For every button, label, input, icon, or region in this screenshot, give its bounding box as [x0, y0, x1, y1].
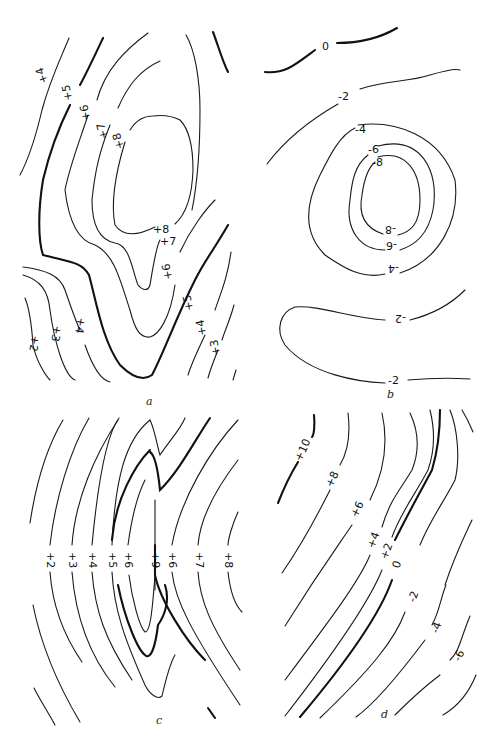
label-a: +8	[110, 132, 127, 151]
contour-c-plus9-ridge	[150, 418, 185, 455]
label-a: +4	[33, 66, 51, 86]
caption-b: b	[387, 388, 394, 401]
label-c: +4	[86, 552, 99, 568]
label-c: +2	[44, 552, 57, 568]
label-a: +5	[59, 84, 75, 102]
contour-b-zero	[265, 28, 397, 72]
contour-c-lower-left	[34, 688, 55, 725]
caption-a: a	[146, 395, 153, 408]
label-b: -4	[355, 123, 366, 136]
label-d: -4	[429, 620, 445, 635]
label-a: +4	[193, 319, 209, 337]
label-a: +7	[160, 235, 176, 248]
caption-c: c	[156, 714, 162, 727]
label-b: 0	[322, 40, 329, 53]
panel-a: +4 +5 +6 +7 +8 +8 +7 +6 +5 +4 +3 +2 +3 +…	[20, 32, 236, 408]
label-a: +2	[26, 334, 42, 352]
label-b: -2	[338, 90, 349, 103]
contour-a-plus8	[113, 115, 193, 233]
label-c: +8	[222, 552, 235, 568]
contour-d-minus6	[395, 520, 472, 715]
contour-d-zero	[300, 410, 440, 717]
label-b: -8	[372, 156, 383, 169]
label-d: 0	[390, 559, 405, 570]
label-b: -6	[386, 239, 397, 252]
contour-a-plus7	[92, 61, 160, 290]
contour-a-right-2	[213, 32, 228, 72]
contour-a-plus4-left	[23, 267, 110, 382]
contour-c-plus5	[112, 420, 175, 697]
contour-d-minus4	[356, 410, 473, 717]
contour-c-lower-2	[33, 605, 80, 722]
label-d: +2	[378, 541, 396, 561]
label-b: -2	[395, 312, 406, 325]
contour-c-plus2	[50, 418, 89, 662]
contour-d-plus2	[285, 410, 434, 716]
contour-a-right-1	[186, 35, 200, 210]
label-b: -4	[388, 262, 399, 275]
label-a: +3	[207, 339, 223, 357]
panel-b: 0 -2 -4 -6 -8 -8 -6 -4 -2 -2 b	[265, 28, 470, 401]
contour-a-plus4-outer	[20, 38, 69, 175]
label-b: -2	[388, 374, 399, 387]
label-b: -6	[368, 143, 379, 156]
panel-d: +10 +8 +6 +4 +2 0 -2 -4 -6 d	[278, 410, 476, 721]
contour-a-plus3-left	[23, 275, 75, 380]
contour-d-minus2	[320, 410, 458, 718]
label-a: +7	[94, 122, 111, 141]
caption-d: d	[381, 708, 388, 721]
label-d: -2	[406, 589, 422, 604]
contour-c-left-outer	[30, 420, 63, 523]
label-c: +7	[193, 552, 206, 568]
label-d: +4	[365, 530, 383, 550]
contour-d-plus8	[282, 413, 349, 573]
contour-b-minus2-lower	[280, 290, 470, 383]
label-a: +3	[48, 324, 64, 342]
contour-figure: +4 +5 +6 +7 +8 +8 +7 +6 +5 +4 +3 +2 +3 +…	[0, 0, 498, 747]
label-c: +9	[149, 552, 162, 568]
label-a: +5	[180, 294, 196, 312]
label-d: -6	[451, 648, 467, 663]
contour-b-minus2-upper	[267, 69, 460, 164]
label-d: +10	[292, 437, 314, 464]
contour-d-minus6-right	[443, 675, 476, 715]
label-b: -8	[385, 223, 396, 236]
label-c: +3	[66, 552, 79, 568]
panel-c: +2 +3 +4 +5 +6 +9 +6 +7 +8 c	[30, 418, 242, 727]
label-a: +4	[72, 316, 88, 334]
label-a: +6	[159, 263, 175, 281]
contour-a-plus6	[65, 33, 215, 337]
label-d: +8	[323, 469, 342, 489]
label-c: +6	[166, 552, 179, 568]
label-d: +6	[348, 499, 367, 519]
label-a: +6	[77, 104, 93, 122]
label-c: +6	[122, 552, 135, 568]
label-c: +5	[106, 552, 119, 568]
